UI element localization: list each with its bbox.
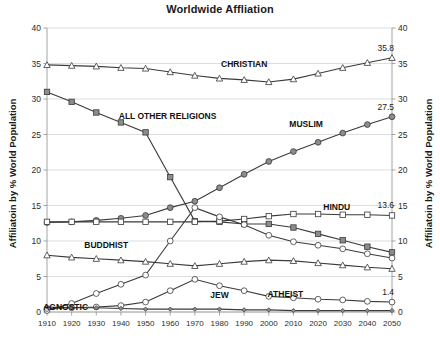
x-axis-ticks: 1910192019301940195019601970198019902000…	[38, 312, 401, 328]
svg-text:2000: 2000	[260, 319, 278, 328]
svg-text:2030: 2030	[334, 319, 352, 328]
chart-plot-area: 0510152025303540 0510152025303540 191019…	[0, 0, 440, 347]
series-label-agnostic: AGNOSTIC	[43, 302, 88, 312]
svg-text:0: 0	[36, 307, 41, 317]
svg-text:10: 10	[398, 236, 408, 246]
svg-text:1960: 1960	[161, 319, 179, 328]
svg-text:30: 30	[398, 94, 408, 104]
value-label-christian: 35.8	[377, 43, 394, 53]
series-all-other-religions	[44, 89, 394, 255]
svg-text:20: 20	[398, 165, 408, 175]
value-label-hindu: 13.6	[377, 200, 394, 210]
svg-text:40: 40	[32, 23, 42, 33]
svg-text:25: 25	[32, 130, 42, 140]
value-label-atheist: 1.4	[382, 287, 394, 297]
svg-text:40: 40	[398, 23, 408, 33]
series-label-all-other-religions: ALL OTHER RELIGIONS	[119, 111, 217, 121]
svg-text:25: 25	[398, 130, 408, 140]
series-label-atheist: ATHEIST	[268, 289, 305, 299]
svg-text:1990: 1990	[235, 319, 253, 328]
value-label-muslim: 27.5	[377, 102, 394, 112]
svg-text:1980: 1980	[211, 319, 229, 328]
svg-text:1930: 1930	[87, 319, 105, 328]
svg-text:1940: 1940	[112, 319, 130, 328]
svg-text:1910: 1910	[38, 319, 56, 328]
y-axis-right-ticks: 0510152025303540	[392, 23, 408, 317]
svg-text:2050: 2050	[383, 319, 401, 328]
svg-text:15: 15	[398, 201, 408, 211]
series-labels-layer: CHRISTIAN35.8ALL OTHER RELIGIONSMUSLIM27…	[43, 43, 394, 313]
svg-text:1950: 1950	[137, 319, 155, 328]
chart-container: Worldwide Affliation Affiliatoin by % Wo…	[0, 0, 440, 347]
svg-text:5: 5	[398, 272, 403, 282]
series-christian	[44, 55, 395, 85]
series-layer	[44, 55, 395, 314]
series-label-hindu: HINDU	[323, 202, 350, 212]
svg-text:2020: 2020	[309, 319, 327, 328]
series-label-jew: JEW	[210, 290, 229, 300]
svg-text:10: 10	[32, 236, 42, 246]
svg-text:5: 5	[36, 272, 41, 282]
svg-text:20: 20	[32, 165, 42, 175]
svg-text:0: 0	[398, 307, 403, 317]
svg-text:1920: 1920	[63, 319, 81, 328]
series-buddhist	[44, 252, 395, 271]
svg-text:2010: 2010	[285, 319, 303, 328]
svg-text:15: 15	[32, 201, 42, 211]
series-label-christian: CHRISTIAN	[221, 59, 267, 69]
series-label-buddhist: BUDDHIST	[84, 240, 129, 250]
svg-text:35: 35	[32, 59, 42, 69]
series-label-muslim: MUSLIM	[289, 119, 323, 129]
svg-text:35: 35	[398, 59, 408, 69]
svg-text:2040: 2040	[358, 319, 376, 328]
svg-text:1970: 1970	[186, 319, 204, 328]
svg-text:30: 30	[32, 94, 42, 104]
